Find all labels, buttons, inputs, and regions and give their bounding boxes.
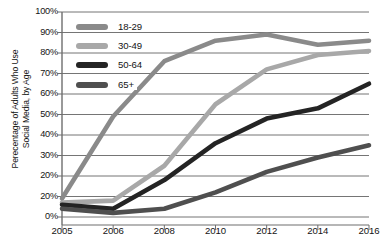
y-tick-label: 0% [24,212,58,221]
legend-item[interactable]: 18-29 [76,17,196,36]
legend-swatch-icon [76,62,108,68]
legend-item-label: 50-64 [118,60,145,70]
legend-swatch-icon [76,82,108,88]
y-tick-label: 80% [24,48,58,57]
x-tick-label: 2016 [347,226,384,236]
legend-item-label: 30-49 [118,41,145,51]
legend-item[interactable]: 65+ [76,75,196,94]
y-axis-tick-labels: 100%90%80%70%60%50%40%30%20%20%0% [22,0,58,245]
y-tick-label: 40% [24,130,58,139]
legend-item-label: 18-29 [118,22,145,32]
y-tick-label: 50% [24,110,58,119]
y-tick-label: 20% [24,171,58,180]
y-tick-label: 100% [24,7,58,16]
y-tick-label: 20% [24,192,58,201]
y-tick-label: 90% [24,28,58,37]
y-tick-label: 70% [24,69,58,78]
y-tick-label: 60% [24,89,58,98]
legend-item[interactable]: 30-49 [76,36,196,55]
y-tick-label: 30% [24,151,58,160]
legend-item-label: 65+ [118,80,137,90]
legend-swatch-icon [76,24,108,30]
legend-item[interactable]: 50-64 [76,56,196,75]
legend-swatch-icon [76,43,108,49]
legend: 18-2930-4950-6465+ [76,17,196,94]
